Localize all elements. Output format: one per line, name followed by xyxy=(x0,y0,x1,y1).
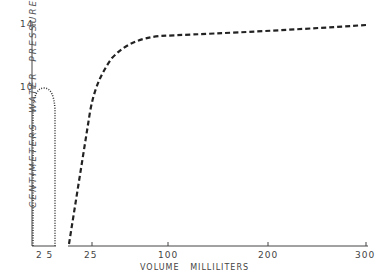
x-tick-label-25: 25 xyxy=(84,250,97,260)
x-tick-label-100: 100 xyxy=(158,250,178,260)
main-dashed-curve xyxy=(69,25,366,244)
x-tick-label-inset: 2 5 xyxy=(36,250,53,260)
x-axis-title: VOLUME MILLILITERS xyxy=(140,263,249,272)
y-axis-title: CENTIMETERS WATER PRESSURE xyxy=(28,38,38,208)
x-tick-label-300: 300 xyxy=(355,250,375,260)
chart-canvas xyxy=(0,0,385,275)
x-tick-label-200: 200 xyxy=(258,250,278,260)
